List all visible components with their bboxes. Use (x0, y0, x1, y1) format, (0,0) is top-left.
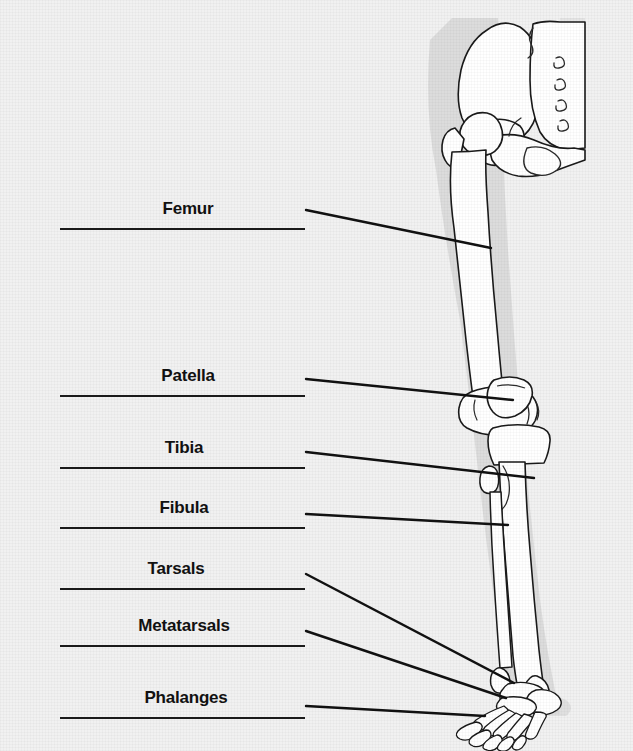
label-patella: Patella (161, 366, 214, 386)
skeleton-illustration (0, 0, 633, 751)
label-tarsals: Tarsals (148, 559, 205, 579)
answer-rule-tibia[interactable] (60, 467, 305, 469)
femoral-head (460, 113, 503, 156)
answer-rule-tarsals[interactable] (60, 588, 305, 590)
answer-rule-fibula[interactable] (60, 527, 305, 529)
answer-rule-patella[interactable] (60, 395, 305, 397)
label-tibia: Tibia (165, 438, 203, 458)
label-fibula: Fibula (160, 498, 209, 518)
leader-metatarsals (306, 631, 506, 698)
leader-fibula (306, 514, 508, 525)
answer-rule-phalanges[interactable] (60, 717, 305, 719)
sacrum (530, 21, 585, 150)
answer-rule-metatarsals[interactable] (60, 645, 305, 647)
answer-rule-femur[interactable] (60, 228, 305, 230)
label-phalanges: Phalanges (144, 688, 227, 708)
tibial-plateau (488, 425, 550, 465)
worksheet-page: Femur Patella Tibia Fibula Tarsals Metat… (0, 0, 633, 751)
fibular-head (480, 466, 499, 494)
leader-phalanges (306, 706, 485, 716)
label-femur: Femur (163, 199, 214, 219)
label-metatarsals: Metatarsals (138, 616, 229, 636)
